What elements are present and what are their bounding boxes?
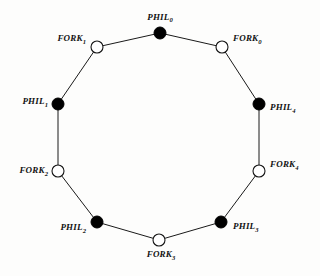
- edges-group: [58, 33, 259, 240]
- label-fork-2: FORK2: [19, 166, 48, 177]
- label-base: FORK: [270, 159, 295, 169]
- label-fork-1: FORK1: [57, 34, 86, 45]
- label-subscript: 3: [255, 226, 258, 233]
- node-fork-0[interactable]: [216, 41, 228, 53]
- label-phil-3: PHIL3: [233, 222, 259, 233]
- edge-fork0-phil4: [222, 47, 259, 104]
- label-base: PHIL: [233, 221, 255, 231]
- label-base: FORK: [57, 33, 82, 43]
- label-fork-4: FORK4: [270, 160, 299, 171]
- node-phil-1[interactable]: [52, 98, 64, 110]
- nodes-group: [52, 27, 265, 246]
- label-phil-1: PHIL1: [22, 97, 48, 108]
- label-base: PHIL: [270, 102, 292, 112]
- label-subscript: 2: [83, 227, 86, 234]
- node-phil-0[interactable]: [154, 27, 166, 39]
- label-base: FORK: [233, 33, 258, 43]
- edge-fork4-phil3: [221, 171, 259, 222]
- node-fork-1[interactable]: [91, 41, 103, 53]
- edge-phil1-fork1: [58, 47, 97, 104]
- dining-philosophers-diagram: PHIL0FORK0PHIL4FORK4PHIL3FORK3PHIL2FORK2…: [0, 0, 320, 276]
- label-base: PHIL: [60, 222, 82, 232]
- node-fork-4[interactable]: [253, 165, 265, 177]
- node-fork-3[interactable]: [153, 234, 165, 246]
- label-base: PHIL: [147, 12, 169, 22]
- label-subscript: 2: [45, 170, 48, 177]
- label-subscript: 1: [45, 101, 48, 108]
- node-fork-2[interactable]: [52, 165, 64, 177]
- edge-fork3-phil2: [97, 222, 159, 240]
- label-fork-0: FORK0: [233, 34, 262, 45]
- edge-phil0-fork0: [160, 33, 222, 47]
- label-base: FORK: [147, 249, 172, 259]
- label-phil-4: PHIL4: [270, 103, 296, 114]
- label-phil-0: PHIL0: [147, 13, 173, 24]
- edge-phil3-fork3: [159, 222, 221, 240]
- edge-phil2-fork2: [58, 171, 97, 222]
- label-base: FORK: [19, 165, 44, 175]
- label-subscript: 3: [172, 254, 175, 261]
- node-phil-4[interactable]: [253, 98, 265, 110]
- node-phil-2[interactable]: [91, 216, 103, 228]
- label-subscript: 1: [83, 38, 86, 45]
- label-subscript: 0: [170, 16, 173, 23]
- edge-fork1-phil0: [97, 33, 160, 47]
- label-base: PHIL: [22, 96, 44, 106]
- label-subscript: 4: [292, 107, 295, 114]
- ring-graph-canvas: [0, 0, 320, 276]
- node-phil-3[interactable]: [215, 216, 227, 228]
- label-phil-2: PHIL2: [60, 223, 86, 234]
- label-fork-3: FORK3: [147, 250, 176, 261]
- label-subscript: 4: [295, 164, 298, 171]
- label-subscript: 0: [258, 38, 261, 45]
